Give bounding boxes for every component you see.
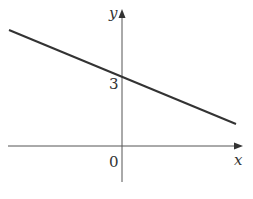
y-intercept-label: 3 xyxy=(109,75,119,93)
x-axis-arrow-icon xyxy=(234,143,243,150)
y-axis-arrow-icon xyxy=(119,9,126,18)
origin-label: 0 xyxy=(109,153,119,171)
chart-canvas: y x 0 3 xyxy=(0,0,253,199)
x-axis-label: x xyxy=(234,151,243,169)
y-axis-label: y xyxy=(108,4,118,22)
